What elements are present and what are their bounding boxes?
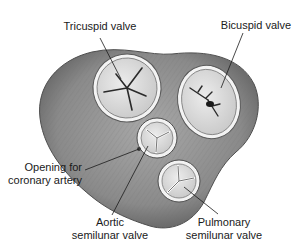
coronary-label-line2: coronary artery [8,174,82,187]
aortic-semilunar-valve [137,118,177,158]
pulmonary-label-line2: semilunar valve [186,229,262,242]
heart-valves-diagram: Tricuspid valve Bicuspid valve Opening f… [0,0,292,248]
bicuspid-label: Bicuspid valve [221,19,291,32]
pulmonary-label-line1: Pulmonary [198,216,251,229]
coronary-label-line1: Opening for [25,161,82,174]
aortic-label-line2: semilunar valve [72,229,148,242]
pulmonary-semilunar-valve [158,160,200,202]
heart-illustration [0,0,292,248]
tricuspid-label: Tricuspid valve [64,20,137,33]
aortic-label-line1: Aortic [96,216,124,229]
